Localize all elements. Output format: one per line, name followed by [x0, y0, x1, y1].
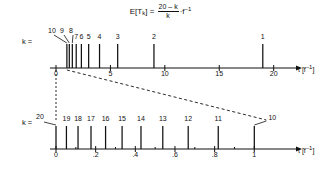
lower-stem-label-k11: 11: [215, 115, 222, 122]
lower-k-equals-label: k =: [22, 118, 32, 127]
lower-stem-label-k16: 16: [102, 115, 110, 122]
lower-leader-line-k10: [254, 121, 266, 125]
upper-stem-label-k10: 10: [48, 27, 56, 34]
upper-tick-label: 10: [161, 70, 169, 77]
lower-stem-label-k20: 20: [36, 113, 44, 120]
upper-stem-label-k2: 2: [152, 33, 156, 40]
lower-stem-label-k18: 18: [74, 115, 82, 122]
upper-tick-label: 5: [108, 70, 112, 77]
figure-root: E[Tk] = 20 – k k ·f–1 051015201234567109…: [0, 0, 321, 175]
upper-leader-line-k8: [72, 35, 73, 43]
lower-stem-label-k15: 15: [118, 115, 126, 122]
lower-stem-label-k13: 13: [159, 115, 167, 122]
upper-stem-label-k6: 6: [79, 33, 83, 40]
upper-stem-label-k7: 7: [74, 33, 78, 40]
lower-tick-label: .4: [132, 151, 138, 158]
lower-tick-label: 1: [252, 151, 256, 158]
lower-tick-label: 0: [54, 151, 58, 158]
lower-axis-title-close: ]: [312, 147, 314, 154]
upper-axis-title-text: t [f: [298, 66, 306, 73]
zoom-connector-diagonal: [67, 70, 266, 120]
upper-tick-label: 0: [54, 70, 58, 77]
lower-tick-label: .2: [93, 151, 99, 158]
upper-tick-label: 20: [270, 70, 278, 77]
lower-tick-label: .8: [212, 151, 218, 158]
upper-stem-label-k9: 9: [60, 27, 64, 34]
upper-k-equals-label: k =: [22, 37, 32, 46]
upper-axis-title: t [f–1]: [298, 64, 314, 73]
lower-stem-label-k17: 17: [87, 115, 95, 122]
lower-axis-title-text: t [f: [298, 147, 306, 154]
lower-stem-label-k14: 14: [137, 115, 145, 122]
lower-stem-label-k12: 12: [184, 115, 192, 122]
lower-leader-line-k20: [44, 122, 56, 125]
upper-tick-label: 15: [215, 70, 223, 77]
lower-tick-label: .6: [172, 151, 178, 158]
lower-axis-title: t [f–1]: [298, 145, 314, 154]
upper-stem-label-k3: 3: [116, 33, 120, 40]
upper-stem-label-k8: 8: [69, 27, 73, 34]
upper-stem-label-k1: 1: [261, 33, 265, 40]
upper-axis-title-close: ]: [312, 66, 314, 73]
lower-stem-label-k19: 19: [63, 115, 71, 122]
upper-stem-label-k4: 4: [98, 33, 102, 40]
lower-stem-label-k10: 10: [268, 114, 276, 121]
upper-stem-label-k5: 5: [87, 33, 91, 40]
